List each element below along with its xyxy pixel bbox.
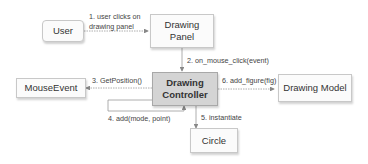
edge-label-4: 4. add(mode, point): [108, 114, 170, 123]
node-user-label: User: [53, 25, 73, 37]
node-drawing-model: Drawing Model: [278, 74, 352, 102]
node-mouse-event: MouseEvent: [16, 78, 86, 98]
node-user: User: [42, 20, 84, 42]
edge-label-3: 3. GetPosition(): [92, 76, 142, 85]
node-circle-label: Circle: [202, 135, 226, 147]
node-drawing-panel-label: Drawing Panel: [161, 19, 203, 43]
edge-label-5: 5. instantiate: [201, 113, 242, 122]
edge-label-2: 2. on_mouse_click(event): [187, 56, 269, 65]
node-drawing-controller-label: Drawing Controller: [161, 77, 209, 101]
edge-label-6: 6. add_figure(fig): [222, 76, 276, 85]
node-drawing-model-label: Drawing Model: [283, 82, 346, 94]
edge-label-1b: drawing panel: [89, 22, 134, 31]
node-circle: Circle: [190, 128, 238, 153]
node-drawing-panel: Drawing Panel: [150, 14, 214, 48]
node-drawing-controller: Drawing Controller: [152, 72, 218, 106]
node-mouse-event-label: MouseEvent: [25, 82, 78, 94]
edge-label-1a: 1. user clicks on: [89, 12, 141, 21]
